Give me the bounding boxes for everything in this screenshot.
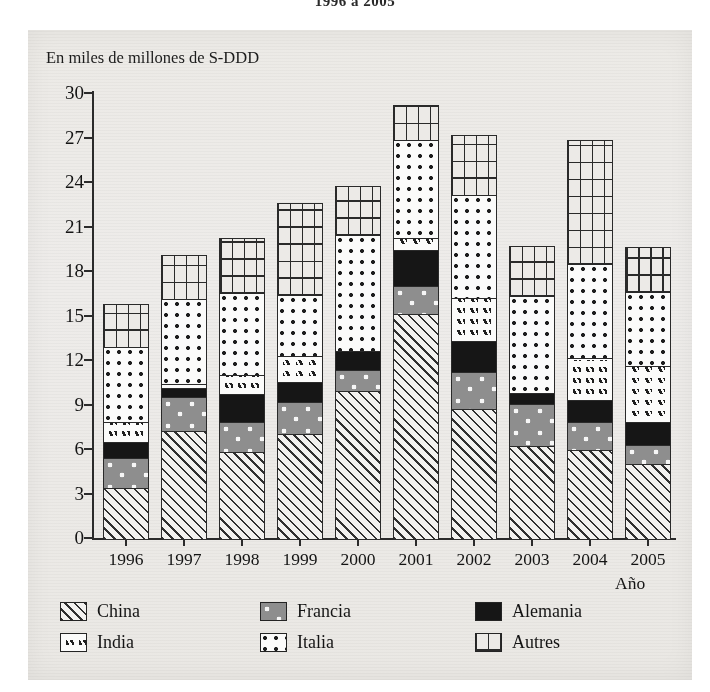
legend-item-alemania[interactable]: Alemania bbox=[475, 601, 675, 622]
legend-label: Italia bbox=[297, 632, 334, 653]
legend-label: Alemania bbox=[512, 601, 582, 622]
chart-legend: ChinaFranciaAlemaniaIndiaItaliaAutres bbox=[60, 596, 660, 658]
legend-item-autres[interactable]: Autres bbox=[475, 632, 675, 653]
legend-swatch-autres-icon bbox=[475, 633, 502, 652]
legend-label: Autres bbox=[512, 632, 560, 653]
y-axis-unit-label: En miles de millones de S-DDD bbox=[46, 48, 259, 68]
legend-swatch-alemania-icon bbox=[475, 602, 502, 621]
legend-item-francia[interactable]: Francia bbox=[260, 601, 475, 622]
legend-swatch-india-icon bbox=[60, 633, 87, 652]
legend-item-china[interactable]: China bbox=[60, 601, 260, 622]
x-axis-name: Año bbox=[615, 573, 645, 594]
legend-swatch-francia-icon bbox=[260, 602, 287, 621]
legend-swatch-china-icon bbox=[60, 602, 87, 621]
legend-item-italia[interactable]: Italia bbox=[260, 632, 475, 653]
chart-panel bbox=[28, 30, 692, 680]
legend-label: Francia bbox=[297, 601, 351, 622]
legend-label: India bbox=[97, 632, 134, 653]
legend-label: China bbox=[97, 601, 140, 622]
chart-title: 1996 a 2005 bbox=[0, 0, 710, 10]
legend-swatch-italia-icon bbox=[260, 633, 287, 652]
legend-item-india[interactable]: India bbox=[60, 632, 260, 653]
